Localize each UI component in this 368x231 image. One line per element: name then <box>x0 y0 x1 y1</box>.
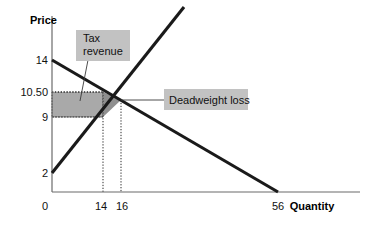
y-tick-label-9: 9 <box>42 111 48 123</box>
tax-revenue-area <box>52 92 103 117</box>
supply-demand-tax-diagram: Tax revenue Deadweight loss 14 10.50 9 2… <box>0 0 368 231</box>
origin-label: 0 <box>42 200 48 212</box>
y-axis-title: Price <box>30 14 57 26</box>
chart-canvas: Tax revenue Deadweight loss 14 10.50 9 2… <box>0 0 368 231</box>
x-tick-label-14: 14 <box>95 200 107 212</box>
y-tick-label-10-50: 10.50 <box>20 86 48 98</box>
x-tick-label-56: 56 <box>272 200 284 212</box>
x-tick-label-16: 16 <box>116 200 128 212</box>
x-axis-title: Quantity <box>290 200 335 212</box>
demand-curve <box>52 60 278 192</box>
y-tick-label-14: 14 <box>36 54 48 66</box>
deadweight-loss-callout-label: Deadweight loss <box>169 94 250 106</box>
tax-revenue-callout-label-line1: Tax <box>83 32 101 44</box>
tax-revenue-callout-label-line2: revenue <box>83 45 123 57</box>
y-tick-label-2: 2 <box>42 167 48 179</box>
